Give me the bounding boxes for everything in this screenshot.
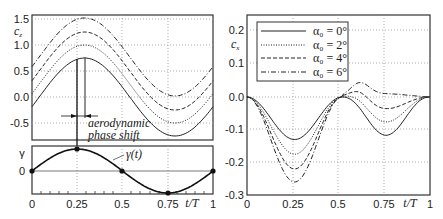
- svg-text:-0.2: -0.2: [225, 156, 244, 168]
- legend-item-0: α₀ = 0°: [313, 24, 347, 38]
- svg-text:-0.1: -0.1: [225, 123, 244, 135]
- legend-item-1: α₀ = 2°: [313, 38, 347, 52]
- svg-text:0.0: 0.0: [229, 91, 244, 103]
- legend: α₀ = 0° α₀ = 2° α₀ = 4° α₀ = 6°: [257, 22, 348, 81]
- gamma-ytick-zero: 0: [19, 165, 25, 177]
- legend-item-3: α₀ = 6°: [313, 65, 347, 79]
- svg-text:0.75: 0.75: [373, 198, 394, 210]
- svg-text:0.0: 0.0: [14, 91, 29, 103]
- svg-text:0.1: 0.1: [229, 57, 244, 69]
- svg-text:-0.5: -0.5: [10, 117, 29, 129]
- svg-text:0.5: 0.5: [114, 198, 129, 210]
- svg-text:0.5: 0.5: [330, 198, 345, 210]
- svg-text:-0.3: -0.3: [225, 189, 244, 201]
- cx-plot: α₀ = 0° α₀ = 2° α₀ = 4° α₀ = 6° 0.2 0.1 …: [225, 15, 433, 210]
- figure: aerodynamic phase shift 1.5 1.0 0.5 0.0 …: [0, 0, 443, 219]
- gamma-curve-label: γ(t): [126, 147, 142, 161]
- gamma-xlabel: t/T: [185, 196, 200, 210]
- gamma-ytick-gamma: γ: [19, 147, 25, 159]
- svg-text:1: 1: [210, 198, 216, 210]
- svg-text:0: 0: [244, 198, 250, 210]
- cz-ylabel: cz: [14, 24, 22, 39]
- svg-text:0.25: 0.25: [66, 198, 87, 210]
- cx-xlabel: t/T: [403, 196, 418, 210]
- svg-text:0.25: 0.25: [282, 198, 303, 210]
- cx-ylabel: cx: [231, 37, 240, 52]
- svg-text:0.2: 0.2: [229, 24, 244, 36]
- svg-text:1.0: 1.0: [14, 39, 29, 51]
- gamma-plot: γ(t) γ 0 0 0.25 0.5 0.75 1 t/T: [19, 146, 216, 210]
- svg-text:0.75: 0.75: [157, 198, 178, 210]
- svg-text:1: 1: [427, 198, 433, 210]
- annotation-phase-shift: phase shift: [87, 128, 140, 142]
- svg-text:0.5: 0.5: [14, 65, 29, 77]
- legend-item-2: α₀ = 4°: [313, 51, 347, 65]
- cz-plot: aerodynamic phase shift 1.5 1.0 0.5 0.0 …: [10, 13, 213, 146]
- svg-text:0: 0: [29, 198, 35, 210]
